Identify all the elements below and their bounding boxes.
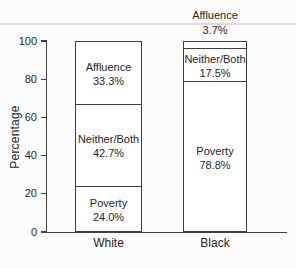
segment-label-affluence: Affluence33.3% xyxy=(76,42,141,106)
segment-value: 78.8% xyxy=(199,158,230,172)
segment-value: 33.3% xyxy=(93,74,124,88)
segment-name: Neither/Both xyxy=(184,52,245,66)
segment-label-neither-both: Neither/Both42.7% xyxy=(76,106,141,188)
segment-name: Affluence xyxy=(170,8,260,23)
segment-label-poverty: Poverty78.8% xyxy=(184,82,246,233)
segment-value: 17.5% xyxy=(199,66,230,80)
bar-white: Poverty24.0%Neither/Both42.7%Affluence33… xyxy=(75,41,142,232)
segment-boundary xyxy=(184,48,246,49)
segment-value: 3.7% xyxy=(170,23,260,38)
y-axis xyxy=(46,40,47,233)
y-axis-tick xyxy=(41,117,46,118)
category-label-white: White xyxy=(74,236,144,250)
y-axis-tick xyxy=(41,193,46,194)
segment-value: 42.7% xyxy=(93,146,124,160)
segment-label-poverty: Poverty24.0% xyxy=(76,187,141,233)
y-axis-tick-label: 20 xyxy=(0,187,37,200)
y-axis-tick xyxy=(41,231,46,232)
segment-name: Affluence xyxy=(86,60,132,74)
y-axis-tick-label: 80 xyxy=(0,73,37,86)
y-axis-tick xyxy=(41,79,46,80)
segment-name: Poverty xyxy=(90,196,127,210)
y-axis-tick-label: 60 xyxy=(0,111,37,124)
segment-value: 24.0% xyxy=(93,210,124,224)
y-axis-tick-label: 0 xyxy=(0,226,37,239)
segment-name: Poverty xyxy=(196,144,233,158)
y-axis-tick-label: 100 xyxy=(0,35,37,48)
segment-name: Neither/Both xyxy=(78,132,139,146)
stacked-bar-chart: Percentage 020406080100Poverty24.0%Neith… xyxy=(0,0,296,268)
segment-label-neither-both: Neither/Both17.5% xyxy=(184,49,246,82)
y-axis-tick-label: 40 xyxy=(0,149,37,162)
y-axis-tick xyxy=(41,155,46,156)
y-axis-tick xyxy=(41,40,46,41)
category-label-black: Black xyxy=(180,236,250,250)
bar-black: Poverty78.8%Neither/Both17.5% xyxy=(183,41,247,232)
segment-label-above-affluence: Affluence3.7% xyxy=(170,8,260,37)
